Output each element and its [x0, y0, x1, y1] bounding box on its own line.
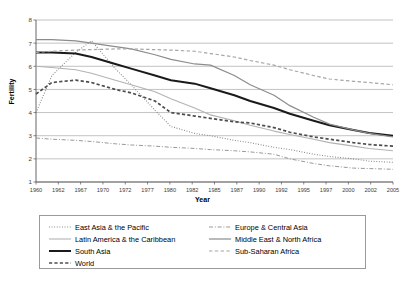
x-tick-label-1985: 1985 — [208, 187, 220, 193]
x-tick-label-1970: 1970 — [97, 187, 109, 193]
y-tick-label-3: 3 — [29, 132, 33, 139]
x-tick-label-1972: 1972 — [119, 187, 131, 193]
x-axis-title: Year — [0, 196, 405, 203]
y-tick-label-2: 2 — [29, 155, 33, 162]
legend-line-swatch — [48, 222, 72, 232]
legend-item[interactable]: East Asia & the Pacific — [48, 221, 208, 233]
x-tick-label-1990: 1990 — [253, 187, 265, 193]
plot-background — [36, 20, 393, 182]
x-tick-label-2000: 2000 — [342, 187, 354, 193]
x-tick-label-2005: 2005 — [387, 187, 399, 193]
legend-item-label: Sub-Saharan Africa — [235, 247, 299, 256]
legend-line-swatch — [208, 246, 232, 256]
y-tick-label-7: 7 — [29, 40, 33, 47]
legend-item-label: Europe & Central Asia — [235, 223, 308, 232]
legend-item-label: South Asia — [75, 247, 110, 256]
legend-line-swatch — [208, 222, 232, 232]
x-tick-label-1997: 1997 — [320, 187, 332, 193]
x-tick-label-2002: 2002 — [364, 187, 376, 193]
x-tick-label-1967: 1967 — [74, 187, 86, 193]
y-tick-label-5: 5 — [29, 86, 33, 93]
legend-column-right: Europe & Central AsiaMiddle East & North… — [208, 221, 363, 257]
legend-item[interactable]: Middle East & North Africa — [208, 233, 363, 245]
plot-area: 1234567819601962196719701972197719801982… — [0, 0, 405, 205]
y-tick-label-4: 4 — [29, 109, 33, 116]
legend-item[interactable]: Latin America & the Caribbean — [48, 233, 208, 245]
x-tick-label-1977: 1977 — [141, 187, 153, 193]
legend-column-left: East Asia & the PacificLatin America & t… — [48, 221, 208, 269]
fertility-line-chart: 1234567819601962196719701972197719801982… — [0, 0, 405, 281]
x-tick-label-1962: 1962 — [52, 187, 64, 193]
legend-item[interactable]: World — [48, 257, 208, 269]
legend-item-label: World — [75, 259, 94, 268]
x-tick-label-1960: 1960 — [30, 187, 42, 193]
legend-item[interactable]: Europe & Central Asia — [208, 221, 363, 233]
legend-item-label: Latin America & the Caribbean — [75, 235, 175, 244]
chart-legend: East Asia & the PacificLatin America & t… — [39, 215, 366, 269]
y-tick-label-6: 6 — [29, 63, 33, 70]
legend-line-swatch — [48, 258, 72, 268]
x-tick-label-1992: 1992 — [275, 187, 287, 193]
legend-line-swatch — [48, 234, 72, 244]
chart-canvas: 1234567819601962196719701972197719801982… — [0, 0, 405, 205]
legend-item-label: East Asia & the Pacific — [75, 223, 149, 232]
legend-line-swatch — [208, 234, 232, 244]
x-tick-label-1980: 1980 — [164, 187, 176, 193]
legend-item[interactable]: Sub-Saharan Africa — [208, 245, 363, 257]
x-tick-label-1995: 1995 — [298, 187, 310, 193]
x-tick-label-1987: 1987 — [231, 187, 243, 193]
x-tick-label-1982: 1982 — [186, 187, 198, 193]
legend-item[interactable]: South Asia — [48, 245, 208, 257]
y-axis-title: Fertility — [8, 62, 15, 122]
legend-line-swatch — [48, 246, 72, 256]
legend-item-label: Middle East & North Africa — [235, 235, 321, 244]
y-tick-label-1: 1 — [29, 178, 33, 185]
y-tick-label-8: 8 — [29, 16, 33, 23]
